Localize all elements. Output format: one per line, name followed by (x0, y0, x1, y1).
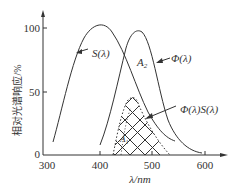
x-tick-500: 500 (144, 159, 161, 171)
product-curve-label: Φ(λ)S(λ) (180, 103, 218, 116)
spectral-response-diagram: 100 50 0 300 400 500 600 λ/nm 相对光谱响应/% S (0, 0, 240, 193)
x-tick-600: 600 (197, 159, 214, 171)
s-curve-label: S(λ) (92, 47, 110, 60)
area2-label: A2 (136, 56, 148, 70)
x-tick-300: 300 (39, 159, 56, 171)
y-axis-title: 相对光谱响应/% (11, 64, 23, 135)
phi-curve-label: Φ(λ) (171, 52, 192, 65)
y-tick-100: 100 (24, 22, 41, 34)
y-tick-50: 50 (29, 86, 41, 98)
s-curve (53, 25, 175, 142)
x-tick-400: 400 (92, 159, 109, 171)
hatched-area-a1 (90, 75, 200, 160)
area1-label: A1 (119, 134, 129, 145)
x-axis-title: λ/nm (128, 173, 150, 185)
